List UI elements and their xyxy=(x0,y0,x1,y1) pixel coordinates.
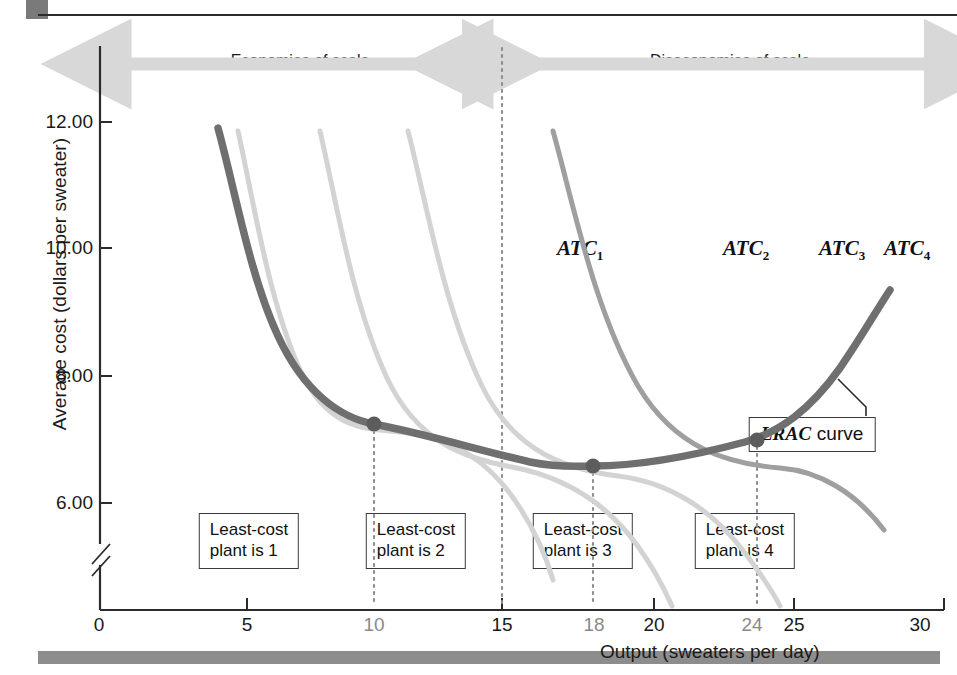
curve-atc4 xyxy=(553,131,884,530)
callout-lrac-curve: LRAC curve xyxy=(749,417,876,452)
x-tick-label-30: 30 xyxy=(897,614,943,636)
band-label-diseconomies: Diseconomies of scale xyxy=(560,52,900,70)
curve-label-atc1-sub: 1 xyxy=(597,248,604,263)
least-cost-plant-box-1-line2: plant is 1 xyxy=(210,541,288,562)
least-cost-plant-box-1: Least-cost plant is 1 xyxy=(199,513,299,569)
intersection-points xyxy=(367,417,765,474)
y-tick-label-6: 6.00 xyxy=(23,492,93,514)
least-cost-plant-box-3: Least-cost plant is 3 xyxy=(533,513,633,569)
y-axis-ticks xyxy=(100,122,112,503)
x-tick-label-18: 18 xyxy=(571,614,617,636)
least-cost-plant-box-3-line1: Least-cost xyxy=(544,520,622,541)
page-corner-marker xyxy=(26,0,48,19)
x-tick-label-10: 10 xyxy=(351,614,397,636)
x-axis-label: Output (sweaters per day) xyxy=(600,641,820,663)
plot-canvas xyxy=(0,18,957,643)
least-cost-plant-box-1-line1: Least-cost xyxy=(210,520,288,541)
top-rule xyxy=(38,14,957,16)
y-tick-label-10: 10.00 xyxy=(23,237,93,259)
callout-lrac-rest: curve xyxy=(812,423,864,444)
lrac-curve-group xyxy=(218,128,890,466)
curve-label-atc3: ATC3 xyxy=(819,236,865,264)
lrac-callout-leader xyxy=(838,379,866,416)
least-cost-plant-box-4-line1: Least-cost xyxy=(706,520,784,541)
least-cost-plant-box-2-line1: Least-cost xyxy=(377,520,455,541)
band-label-economies: Economies of scale xyxy=(130,52,470,70)
x-axis-ticks xyxy=(100,598,944,610)
least-cost-plant-box-3-line2: plant is 3 xyxy=(544,541,622,562)
curve-label-atc2-sub: 2 xyxy=(763,248,770,263)
intersection-dot-x18 xyxy=(586,459,601,474)
curve-label-atc2-text: ATC xyxy=(723,236,763,260)
curve-label-atc3-sub: 3 xyxy=(859,248,866,263)
x-tick-label-20: 20 xyxy=(631,614,677,636)
curve-label-atc4-text: ATC xyxy=(884,236,924,260)
x-tick-label-0: 0 xyxy=(76,614,122,636)
y-axis-label: Average cost (dollars per sweater) xyxy=(49,74,71,494)
curve-lrac xyxy=(218,128,890,466)
y-tick-label-12: 12.00 xyxy=(23,111,93,133)
curve-label-atc2: ATC2 xyxy=(723,236,769,264)
least-cost-plant-box-4: Least-cost plant is 4 xyxy=(695,513,795,569)
least-cost-plant-box-2-line2: plant is 2 xyxy=(377,541,455,562)
figure-lrac-chart: Average cost (dollars per sweater) Outpu… xyxy=(0,18,957,643)
curve-label-atc1-text: ATC xyxy=(557,236,597,260)
x-tick-label-15: 15 xyxy=(479,614,525,636)
least-cost-plant-box-2: Least-cost plant is 2 xyxy=(366,513,466,569)
curve-label-atc3-text: ATC xyxy=(819,236,859,260)
y-tick-label-8: 8.00 xyxy=(23,365,93,387)
intersection-dot-x10 xyxy=(367,417,382,432)
x-tick-label-5: 5 xyxy=(224,614,270,636)
least-cost-plant-box-4-line2: plant is 4 xyxy=(706,541,784,562)
curve-label-atc1: ATC1 xyxy=(557,236,603,264)
x-tick-label-24: 24 xyxy=(729,614,775,636)
callout-lrac-abbr: LRAC xyxy=(761,423,812,444)
atc4-curve xyxy=(553,131,884,530)
curve-label-atc4-sub: 4 xyxy=(924,248,931,263)
curve-label-atc4: ATC4 xyxy=(884,236,930,264)
x-tick-label-25: 25 xyxy=(771,614,817,636)
